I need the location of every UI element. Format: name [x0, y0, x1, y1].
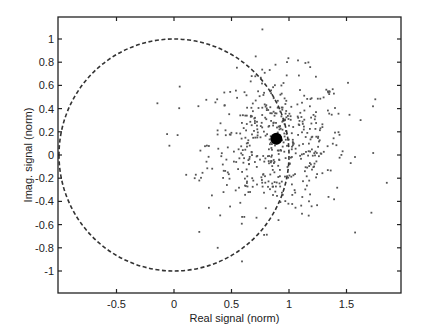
data-point	[261, 182, 263, 184]
data-point	[242, 154, 244, 156]
data-point	[286, 145, 288, 147]
data-point	[229, 206, 231, 208]
data-point	[327, 110, 329, 112]
data-point	[310, 164, 312, 166]
data-point	[274, 84, 276, 86]
data-point	[206, 167, 208, 169]
data-point	[242, 114, 244, 116]
data-point	[291, 156, 293, 158]
data-point	[243, 127, 245, 129]
data-point	[244, 91, 246, 93]
data-point	[308, 143, 310, 145]
data-point	[297, 134, 299, 136]
data-point	[269, 69, 271, 71]
data-point	[372, 105, 374, 107]
data-point	[246, 107, 248, 109]
data-point	[263, 173, 265, 175]
data-point	[263, 234, 265, 236]
data-point	[279, 129, 281, 131]
data-point	[313, 166, 315, 168]
data-point	[198, 231, 200, 233]
data-point	[372, 152, 374, 154]
data-point	[270, 92, 272, 94]
data-point	[303, 153, 305, 155]
data-point	[271, 155, 273, 157]
data-point	[302, 121, 304, 123]
data-point	[323, 151, 325, 153]
data-point	[347, 82, 349, 84]
y-tick-label: 0	[48, 149, 54, 161]
data-point	[341, 154, 343, 156]
data-point	[287, 115, 289, 117]
data-point	[289, 175, 291, 177]
data-point	[298, 124, 300, 126]
data-point	[284, 98, 286, 100]
y-axis-ticks: -1-0.8-0.6-0.4-0.200.20.40.60.81	[35, 33, 401, 277]
data-point	[280, 149, 282, 151]
data-point	[302, 143, 304, 145]
data-point	[317, 146, 319, 148]
data-point	[241, 261, 243, 263]
data-point	[328, 93, 330, 95]
data-point	[220, 155, 222, 157]
data-point	[307, 155, 309, 157]
data-point	[268, 181, 270, 183]
data-point	[195, 174, 197, 176]
data-point	[279, 169, 281, 171]
data-point	[274, 145, 276, 147]
data-point	[236, 97, 238, 99]
data-point	[316, 204, 318, 206]
data-point	[309, 151, 311, 153]
highlight-point	[270, 133, 282, 145]
data-point	[265, 158, 267, 160]
data-point	[284, 136, 286, 138]
data-point	[281, 181, 283, 183]
data-point	[249, 158, 251, 160]
data-point	[278, 153, 280, 155]
data-point	[254, 120, 256, 122]
data-point	[283, 82, 285, 84]
data-point	[239, 133, 241, 135]
data-point	[246, 175, 248, 177]
data-point	[252, 186, 254, 188]
data-point	[270, 120, 272, 122]
data-point	[252, 137, 254, 139]
data-point	[281, 85, 283, 87]
data-point	[295, 152, 297, 154]
data-point	[325, 89, 327, 91]
data-point	[299, 89, 301, 91]
data-point	[276, 182, 278, 184]
data-point	[241, 138, 243, 140]
data-point	[259, 95, 261, 97]
data-point	[222, 164, 224, 166]
data-point	[236, 132, 238, 134]
data-point	[206, 161, 208, 163]
data-point	[244, 115, 246, 117]
data-point	[229, 91, 231, 93]
y-tick-label: 0.2	[39, 126, 54, 138]
data-point	[315, 128, 317, 130]
data-point	[329, 91, 331, 93]
data-point	[310, 117, 312, 119]
data-point	[276, 127, 278, 129]
data-point	[228, 113, 230, 115]
data-point	[263, 131, 265, 133]
data-point	[291, 148, 293, 150]
data-point	[233, 151, 235, 153]
data-point	[318, 155, 320, 157]
data-point	[257, 132, 259, 134]
data-point	[273, 122, 275, 124]
data-point	[251, 134, 253, 136]
data-point	[244, 178, 246, 180]
data-point	[317, 98, 319, 100]
data-point	[243, 162, 245, 164]
data-point	[333, 137, 335, 139]
data-point	[215, 102, 217, 104]
data-point	[305, 136, 307, 138]
data-point	[251, 154, 253, 156]
data-point	[308, 200, 310, 202]
data-point	[272, 125, 274, 127]
y-tick-label: 0.4	[39, 103, 54, 115]
data-point	[227, 147, 229, 149]
data-point	[200, 177, 202, 179]
